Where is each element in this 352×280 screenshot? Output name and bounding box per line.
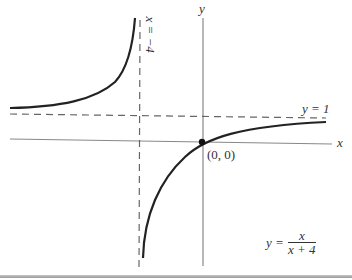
page-edge	[0, 275, 352, 278]
origin-point	[199, 139, 205, 145]
equation-denominator: x + 4	[288, 243, 316, 256]
y-axis-label: y	[199, 2, 205, 15]
equation-fraction: x x + 4	[288, 229, 316, 256]
equation: y = x x + 4	[266, 227, 336, 259]
horizontal-asymptote	[10, 114, 326, 118]
equation-lhs: y =	[266, 236, 284, 249]
equation-numerator: x	[288, 229, 316, 243]
x-axis	[10, 139, 332, 144]
vertical-asymptote	[139, 20, 140, 268]
curve-left-branch	[10, 18, 135, 108]
x-axis-label: x	[337, 136, 343, 149]
vertical-asymptote-label: x = −4	[144, 17, 157, 57]
origin-label: (0, 0)	[207, 148, 235, 161]
horizontal-asymptote-label: y = 1	[302, 102, 330, 115]
